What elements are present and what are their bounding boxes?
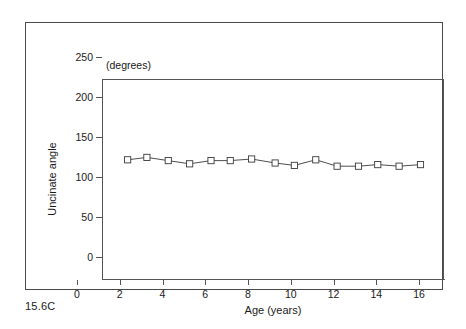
x-axis-tick-label: 6	[202, 288, 208, 300]
y-axis-tick	[96, 257, 102, 258]
x-axis-tick	[163, 280, 164, 285]
x-axis-tick	[419, 280, 420, 285]
x-axis-tick	[248, 280, 249, 285]
plot-area	[102, 79, 444, 279]
y-axis-tick	[96, 137, 102, 138]
x-axis-tick	[334, 280, 335, 285]
y-axis-line	[102, 79, 103, 280]
x-axis-tick-label: 14	[370, 288, 382, 300]
x-axis-tick	[376, 280, 377, 285]
y-axis-tick	[96, 177, 102, 178]
y-axis-tick-label: 250	[75, 51, 93, 63]
y-axis-tick	[96, 97, 102, 98]
figure-caption: 15.6C	[25, 300, 55, 312]
x-axis-title: Age (years)	[245, 304, 302, 316]
y-axis-tick-label: 200	[75, 91, 93, 103]
x-axis-tick-label: 12	[328, 288, 340, 300]
y-axis-title: Uncinate angle	[46, 142, 58, 215]
x-axis-tick	[120, 280, 121, 285]
x-axis-tick-label: 4	[160, 288, 166, 300]
x-axis-tick	[77, 280, 78, 285]
y-axis-tick-label: 100	[75, 171, 93, 183]
x-axis-tick	[291, 280, 292, 285]
x-axis-tick-label: 8	[245, 288, 251, 300]
x-axis-line	[102, 279, 445, 280]
y-axis-tick-label: 0	[87, 251, 93, 263]
x-axis-tick-label: 16	[413, 288, 425, 300]
figure-frame: (degrees) 050100150200250 0246810121416 …	[25, 22, 443, 290]
y-axis-tick-label: 50	[81, 211, 93, 223]
y-axis-tick-label: 150	[75, 131, 93, 143]
x-axis-tick-label: 0	[74, 288, 80, 300]
y-axis-units-label: (degrees)	[106, 59, 151, 71]
x-axis-tick-label: 2	[117, 288, 123, 300]
x-axis-tick	[205, 280, 206, 285]
y-axis-tick	[96, 217, 102, 218]
x-axis-tick-label: 10	[285, 288, 297, 300]
y-axis-tick	[96, 57, 102, 58]
